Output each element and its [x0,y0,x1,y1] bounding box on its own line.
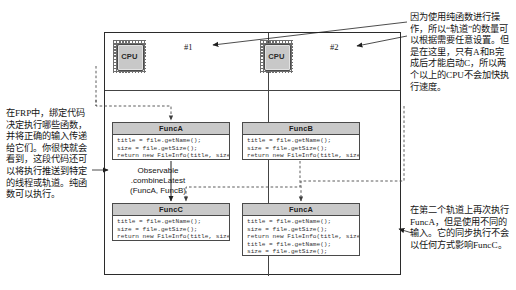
function-box-funca-lane1: FuncA title = file.getName(); size = fil… [112,122,230,160]
lane-label-1: #1 [184,42,193,52]
diagram-canvas: 在FRP中，绑定代码决定执行哪些函数，并将正确的输入传递给它们。你很快就会看到，… [0,0,516,290]
function-box-title: FuncA [113,123,229,135]
combine-line-2: .combineLatest [113,176,203,186]
function-box-funcb-lane2: FuncB title = file.getName(); size = fil… [242,122,360,160]
function-box-title: FuncA [243,204,359,216]
code-line: size = file.getSize(); [247,248,356,256]
code-line: title = file.getName(); [247,241,356,249]
code-line: size = file.getSize(); [247,145,356,153]
lane-label-2: #2 [330,42,339,52]
code-line: return new FileInfo(title, size); [117,233,226,241]
code-line: size = file.getSize(); [117,226,226,234]
function-box-code: title = file.getName(); size = file.getS… [243,216,359,258]
code-line: return new FileInfo(title, size); [117,152,226,160]
cpu-row-divider [105,90,400,91]
code-line: size = file.getSize(); [247,226,356,234]
combine-latest-caption: Observable .combineLatest (FuncA, FuncB) [113,166,203,197]
function-box-funca-lane2: FuncA title = file.getName(); size = fil… [242,203,360,256]
code-line: title = file.getName(); [117,137,226,145]
annotation-note-bottom-right: 在第二个轨道上再次执行FuncA，但是使用不同的输入。它的同步执行不会以任何方式… [410,205,510,251]
code-line: return new FileInfo(title, size); [247,152,356,160]
code-line: title = file.getName(); [247,218,356,226]
combine-line-3: (FuncA, FuncB) [113,186,203,196]
code-line: title = file.getName(); [117,218,226,226]
annotation-note-left: 在FRP中，绑定代码决定执行哪些函数，并将正确的输入传递给它们。你很快就会看到，… [6,108,94,201]
function-box-code: title = file.getName(); size = file.getS… [243,135,359,162]
cpu-label-2: CPU [260,40,293,73]
code-line: return new FileInfo(title, size); [247,233,356,241]
code-line: size = file.getSize(); [117,145,226,153]
cpu-label-1: CPU [113,40,146,73]
function-box-funcc-lane1: FuncC title = file.getName(); size = fil… [112,203,230,241]
combine-line-1: Observable [113,166,203,176]
cpu-icon-2: CPU [260,40,293,73]
annotation-note-top-right: 因为使用纯函数进行操作，所以“轨道”的数量可以根据需要任意设置。但是在这里，只有… [410,12,510,93]
function-box-code: title = file.getName(); size = file.getS… [113,135,229,162]
cpu-icon-1: CPU [113,40,146,73]
function-box-title: FuncB [243,123,359,135]
code-line: title = file.getName(); [247,137,356,145]
function-box-title: FuncC [113,204,229,216]
function-box-code: title = file.getName(); size = file.getS… [113,216,229,243]
